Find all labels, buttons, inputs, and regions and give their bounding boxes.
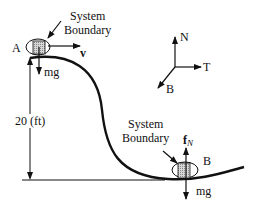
normal-force-label: fN bbox=[183, 133, 194, 148]
weight-label-a: mg bbox=[44, 65, 59, 79]
ntb-axes: N T B bbox=[158, 30, 211, 96]
point-b-label: B bbox=[203, 154, 211, 168]
energy-diagram: 20 (ft) A v mg System Boundary N T B B f… bbox=[0, 0, 255, 206]
b-axis-label: B bbox=[166, 82, 174, 96]
boundary-pointer-a bbox=[48, 21, 61, 38]
n-axis-label: N bbox=[180, 30, 189, 44]
velocity-label: v bbox=[80, 46, 86, 60]
system-a: A v mg System Boundary bbox=[12, 9, 111, 79]
block-b bbox=[178, 163, 190, 178]
boundary-label-a-line2: Boundary bbox=[64, 23, 111, 37]
height-label: 20 (ft) bbox=[15, 114, 45, 128]
boundary-pointer-b bbox=[163, 151, 177, 163]
boundary-label-b-line1: System bbox=[128, 117, 164, 131]
t-axis-label: T bbox=[203, 60, 211, 74]
boundary-label-b-line2: Boundary bbox=[122, 131, 169, 145]
point-a-label: A bbox=[12, 41, 21, 55]
weight-label-b: mg bbox=[196, 184, 211, 198]
system-b: B fN mg System Boundary bbox=[122, 117, 211, 199]
height-arrow-down-icon bbox=[27, 172, 33, 180]
boundary-label-a-line1: System bbox=[70, 9, 106, 23]
